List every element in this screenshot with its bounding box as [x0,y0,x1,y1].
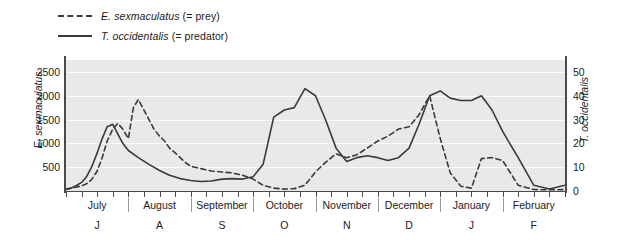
y-tick-label-right: 0 [573,185,603,197]
y-tick-label-left: 1000 [20,137,60,149]
month-label-january: January [440,196,502,214]
x-axis-month-initials: JASONDJF [66,217,565,233]
legend-item-prey: E. sexmaculatus (= prey) [58,9,228,23]
y-tick-label-left: 1500 [20,114,60,126]
y-tick-label-left: 500 [20,161,60,173]
month-initial-5: D [378,217,440,233]
series-line-prey [66,96,565,190]
legend-role-predator: (= predator) [172,30,228,42]
solid-line-swatch-icon [58,31,92,41]
month-initial-2: S [191,217,253,233]
legend-item-predator: T. occidentalis (= predator) [58,29,228,43]
y-tick-label-right: 30 [573,114,603,126]
legend-species-predator: T. occidentalis [101,30,169,42]
month-label-october: October [253,196,315,214]
month-initial-3: O [253,217,315,233]
month-label-november: November [316,196,378,214]
month-initial-4: N [316,217,378,233]
month-label-february: February [503,196,565,214]
y-tick-label-right: 10 [573,161,603,173]
y-tick-label-left: 2500 [20,66,60,78]
dashed-line-swatch-icon [58,11,92,21]
month-initial-1: A [128,217,190,233]
legend-role-prey: (= prey) [183,10,220,22]
month-initial-6: J [440,217,502,233]
plot-area [66,60,565,191]
y-tick-label-right: 50 [573,66,603,78]
y-tick-label-right: 40 [573,90,603,102]
legend-label-predator: T. occidentalis (= predator) [101,30,228,42]
y-tick-label-right: 20 [573,137,603,149]
month-label-december: December [378,196,440,214]
legend-label-prey: E. sexmaculatus (= prey) [101,10,220,22]
x-tick-mark [565,192,566,197]
month-initial-7: F [503,217,565,233]
month-initial-0: J [66,217,128,233]
y-axis-right-line [565,56,567,193]
x-axis-month-labels: JulyAugustSeptemberOctoberNovemberDecemb… [66,196,565,214]
legend-species-prey: E. sexmaculatus [101,10,180,22]
y-tick-label-left: 2000 [20,90,60,102]
month-label-july: July [66,196,128,214]
month-label-august: August [128,196,190,214]
month-label-september: September [191,196,253,214]
data-series-svg [66,60,565,191]
chart-legend: E. sexmaculatus (= prey) T. occidentalis… [58,9,228,43]
